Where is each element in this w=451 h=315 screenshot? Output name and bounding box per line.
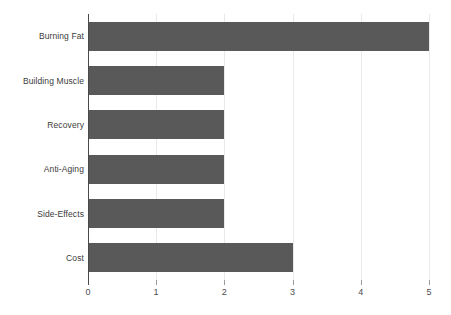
y-axis-category-label: Burning Fat	[0, 31, 84, 41]
x-tick-label-2: 2	[204, 287, 244, 297]
y-axis-category-label: Anti-Aging	[0, 164, 84, 174]
bar	[88, 243, 293, 272]
x-tick-label-1: 1	[136, 287, 176, 297]
gridline-5	[429, 14, 430, 280]
bar	[88, 22, 429, 51]
x-tick-label-4: 4	[341, 287, 381, 297]
y-axis-category-label: Recovery	[0, 120, 84, 130]
plot-area	[88, 14, 429, 280]
x-tick-mark-2	[224, 280, 225, 285]
x-tick-mark-4	[361, 280, 362, 285]
bar	[88, 199, 224, 228]
y-axis-category-label: Side-Effects	[0, 209, 84, 219]
x-tick-label-5: 5	[409, 287, 449, 297]
x-tick-mark-1	[156, 280, 157, 285]
bar	[88, 110, 224, 139]
x-tick-label-0: 0	[68, 287, 108, 297]
y-axis-category-label: Cost	[0, 253, 84, 263]
x-tick-mark-3	[293, 280, 294, 285]
x-tick-mark-5	[429, 280, 430, 285]
x-tick-mark-0	[88, 280, 89, 285]
bar	[88, 155, 224, 184]
y-axis-category-label: Building Muscle	[0, 76, 84, 86]
y-axis-line	[88, 14, 89, 282]
bar	[88, 66, 224, 95]
x-tick-label-3: 3	[273, 287, 313, 297]
horizontal-bar-chart: 012345 Burning FatBuilding MuscleRecover…	[0, 0, 451, 315]
